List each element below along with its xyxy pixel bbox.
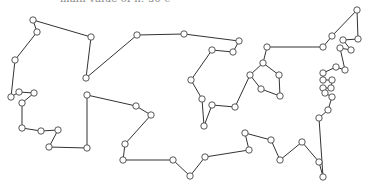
city-node [322,90,328,96]
city-node [340,37,346,43]
city-node [258,86,264,92]
city-node [88,34,94,40]
city-node [230,49,236,55]
city-nodes [8,7,361,180]
city-node [38,128,44,134]
city-node [277,157,283,163]
city-node [84,92,90,98]
city-node [268,137,274,143]
city-node [181,31,187,37]
city-node [276,72,282,78]
city-node [329,77,335,83]
city-node [8,94,14,100]
city-node [202,154,208,160]
city-node [329,94,335,100]
city-node [31,90,37,96]
city-node [134,32,140,38]
city-node [355,36,361,42]
city-node [329,33,335,39]
city-node [342,67,348,73]
tour-path-segment [250,63,280,96]
city-node [12,57,18,63]
city-node [337,45,343,51]
city-node [348,47,354,53]
city-node [34,29,40,35]
city-node [328,85,334,91]
city-node [188,77,194,83]
city-node [201,123,207,129]
city-node [236,38,242,44]
city-node [133,103,139,109]
city-node [16,89,22,95]
city-node [260,60,266,66]
city-node [333,64,339,70]
city-node [242,130,248,136]
tsp-tour-diagram [0,0,368,185]
city-node [170,157,176,163]
city-node [46,144,52,150]
city-node [148,112,154,118]
city-node [199,96,205,102]
city-node [299,139,305,145]
city-node [209,102,215,108]
city-node [316,159,322,165]
city-node [246,147,252,153]
city-node [264,44,270,50]
city-node [122,141,128,147]
city-node [320,77,326,83]
city-node [30,17,36,23]
city-node [320,44,326,50]
city-node [19,100,25,106]
city-node [277,93,283,99]
city-node [316,115,322,121]
city-node [19,125,25,131]
city-node [247,72,253,78]
city-node [320,70,326,76]
city-node [187,173,193,179]
city-node [84,145,90,151]
city-node [232,104,238,110]
city-node [320,174,326,180]
city-node [120,157,126,163]
city-node [354,7,360,13]
city-node [209,47,215,53]
city-node [325,107,331,113]
city-node [55,127,61,133]
city-node [83,75,89,81]
